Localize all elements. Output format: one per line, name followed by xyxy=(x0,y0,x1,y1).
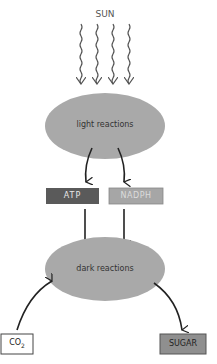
photosynthesis-diagram xyxy=(0,0,217,364)
sun-rays-icon xyxy=(80,24,130,84)
co2-text: CO xyxy=(9,338,21,347)
dark-reactions-label: dark reactions xyxy=(50,264,160,273)
arrow-dark-to-sugar xyxy=(154,283,182,330)
co2-label: CO2 xyxy=(1,338,33,349)
atp-label: ATP xyxy=(46,191,99,200)
sun-label: SUN xyxy=(80,9,130,19)
light-reactions-label: light reactions xyxy=(50,120,160,129)
arrow-co2-to-dark xyxy=(17,281,52,330)
sugar-label: SUGAR xyxy=(160,339,206,348)
nadph-label: NADPH xyxy=(109,191,163,200)
co2-subscript: 2 xyxy=(21,342,25,349)
